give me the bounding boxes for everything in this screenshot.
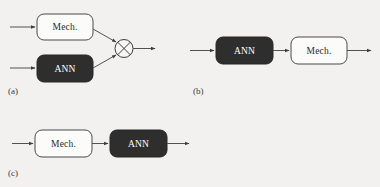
panel-b-block-ann[interactable]: ANN (216, 37, 273, 64)
panel-c-block-mech[interactable]: Mech. (35, 130, 92, 157)
panel-c: Mech. ANN (c) (8, 130, 189, 178)
panel-b-block-mech[interactable]: Mech. (291, 37, 347, 64)
multiply-node[interactable] (115, 40, 133, 58)
panel-a-caption: (a) (8, 86, 18, 96)
panel-a: Mech. ANN (a) (8, 14, 155, 96)
panel-b-caption: (b) (193, 86, 204, 96)
panel-c-caption: (c) (8, 168, 18, 178)
panel-a-block-mech[interactable]: Mech. (37, 14, 93, 40)
hybrid-model-figure: Mech. ANN (a) (0, 0, 380, 187)
panel-a-connector-ann-to-node (93, 55, 116, 68)
panel-c-block-ann-label: ANN (128, 139, 149, 149)
panel-a-block-ann-label: ANN (54, 64, 75, 74)
panel-b-block-ann-label: ANN (234, 46, 255, 56)
figure-canvas: Mech. ANN (a) (0, 0, 380, 187)
panel-b-block-mech-label: Mech. (306, 46, 331, 56)
panel-a-block-mech-label: Mech. (52, 22, 77, 32)
panel-a-block-ann[interactable]: ANN (37, 55, 93, 82)
panel-c-block-ann[interactable]: ANN (110, 130, 167, 157)
panel-a-connector-mech-to-node (93, 29, 116, 42)
panel-c-block-mech-label: Mech. (51, 139, 76, 149)
panel-b: ANN Mech. (b) (190, 37, 371, 96)
